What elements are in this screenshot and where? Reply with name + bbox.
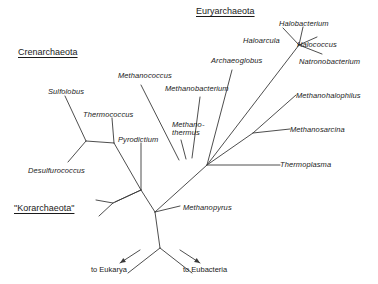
taxon-label-haloarcula: Haloarcula [243,37,280,46]
group-label-euryarchaeota: Euryarchaeota [196,6,255,16]
node-cren-b-to-c [114,143,141,190]
taxon-label-methanosarcina: Methanosarcina [290,126,345,135]
taxon-label-natronobacterium: Natronobacterium [299,58,360,67]
node-cren-to-root [141,190,155,212]
arrow-eubacteria-head [194,258,200,263]
taxon-label-sulfolobus: Sulfolobus [48,88,84,97]
taxon-label-halococcus: Halococcus [297,41,337,50]
node-cren-a-to-b [86,141,114,143]
outgroup-label-to-eukarya: to Eukarya [91,265,127,274]
branch-korarchaeota-fork-up [96,200,113,203]
branch-methanosarcina [253,129,290,133]
arrow-eubacteria [180,250,200,263]
taxon-label-methanococcus: Methanococcus [118,72,172,81]
branch-layer [65,27,322,273]
outgroup-label-to-eubacteria: to Eubacteria [183,265,227,274]
taxon-label-thermococcus: Thermococcus [83,111,133,120]
branch-root-to-outgroups [155,212,160,248]
branch-korar-to-node [113,190,141,203]
taxon-label-desulfurococcus: Desulfurococcus [28,167,85,176]
branch-thermococcus [112,118,114,143]
branch-korarchaeota-fork-down [99,203,113,216]
arrow-eukarya [120,250,140,263]
branch-to-eukarya [128,248,160,273]
branch-methanothermus [181,140,186,159]
arrow-layer [120,250,200,263]
branch-desulfurococcus [68,141,86,162]
taxon-label-methanothermus: Methano-thermus [172,121,205,137]
taxon-label-methanopyrus: Methanopyrus [183,204,232,213]
arrow-eukarya-head [120,258,126,263]
taxon-label-methanohalophilus: Methanohalophilus [296,92,361,101]
phylogenetic-tree-figure: CrenarchaeotaEuryarchaeota"Korarchaeota"… [0,0,378,284]
group-label-crenarchaeota: Crenarchaeota [18,47,78,57]
group-label-korarchaeota: "Korarchaeota" [14,203,74,213]
taxon-label-pyrodictium: Pyrodictium [118,136,158,145]
taxon-label-halobacterium: Halobacterium [279,20,329,29]
taxon-label-methanobacterium: Methanobacterium [165,85,229,94]
taxon-label-thermoplasma: Thermoplasma [280,161,331,170]
taxon-label-archaeoglobus: Archaeoglobus [211,57,262,66]
